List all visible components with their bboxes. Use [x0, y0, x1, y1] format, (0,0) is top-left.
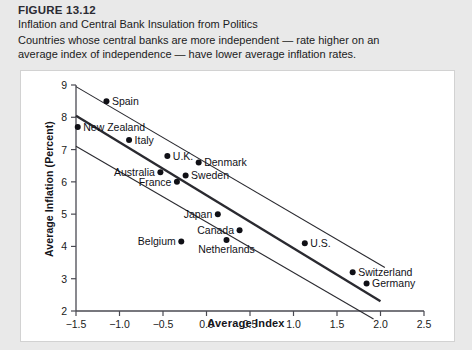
y-axis-title: Average Inflation (Percent): [43, 109, 55, 269]
figure-title: Inflation and Central Bank Insulation fr…: [18, 18, 458, 32]
chart-panel: Average Inflation (Percent) Average Inde…: [20, 70, 455, 342]
figure-number: FIGURE 13.12: [18, 4, 458, 16]
figure-subtitle-line1: Countries whose central banks are more i…: [18, 33, 458, 47]
figure-root: FIGURE 13.12 Inflation and Central Bank …: [0, 0, 472, 350]
x-axis-title: Average Index: [81, 317, 411, 329]
figure-subtitle-line2: average index of independence — have low…: [18, 47, 458, 61]
figure-caption: FIGURE 13.12 Inflation and Central Bank …: [18, 4, 458, 61]
